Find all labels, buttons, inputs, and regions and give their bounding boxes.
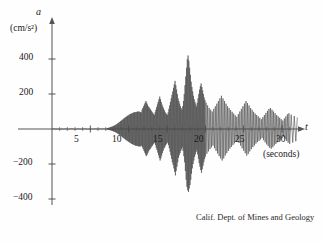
waveform-trace	[52, 56, 297, 193]
y-axis-variable-label: a	[36, 7, 41, 17]
x-tick-label-20: 20	[194, 135, 204, 145]
y-axis-arrowhead	[49, 17, 55, 24]
x-tick-label-15: 15	[153, 135, 163, 145]
y-tick-label-minus-400: −400	[13, 193, 33, 203]
x-tick-label-30: 30	[276, 135, 286, 145]
x-axis-unit-label: (seconds)	[263, 150, 299, 160]
source-credit: Calif. Dept. of Mines and Geology	[196, 213, 314, 222]
y-tick-label-400: 400	[19, 53, 33, 63]
x-tick-label-25: 25	[235, 135, 245, 145]
y-tick-label-200: 200	[19, 88, 33, 98]
x-tick-label-10: 10	[112, 135, 122, 145]
y-axis-unit-label: (cm/s²)	[10, 24, 37, 34]
acceleration-plot	[0, 0, 322, 243]
y-tick-label-minus-200: −200	[13, 158, 33, 168]
x-tick-label-5: 5	[74, 135, 79, 145]
x-axis-arrowhead	[298, 126, 305, 132]
seismogram-figure: a (cm/s²) 400 200 −200 −400 5 10 15 20 2…	[0, 0, 322, 243]
x-axis-variable-label: t	[305, 122, 308, 132]
